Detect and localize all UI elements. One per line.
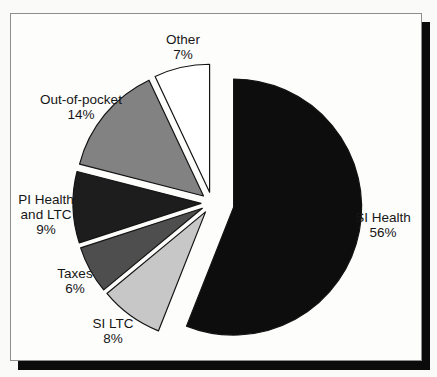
slice-label-other: Other7% xyxy=(166,32,200,62)
slice-label-si-health: SI Health56% xyxy=(355,210,411,240)
slice-label-pi-health-and-ltc: PI Healthand LTC9% xyxy=(18,192,74,237)
pie-chart: SI Health56%SI LTC8%Taxes6%PI Healthand … xyxy=(0,0,437,377)
slice-label-si-ltc: SI LTC8% xyxy=(92,316,133,346)
slice-label-taxes: Taxes6% xyxy=(57,266,93,296)
chart-figure: SI Health56%SI LTC8%Taxes6%PI Healthand … xyxy=(0,0,437,377)
pie-slice-si-health xyxy=(186,79,361,335)
